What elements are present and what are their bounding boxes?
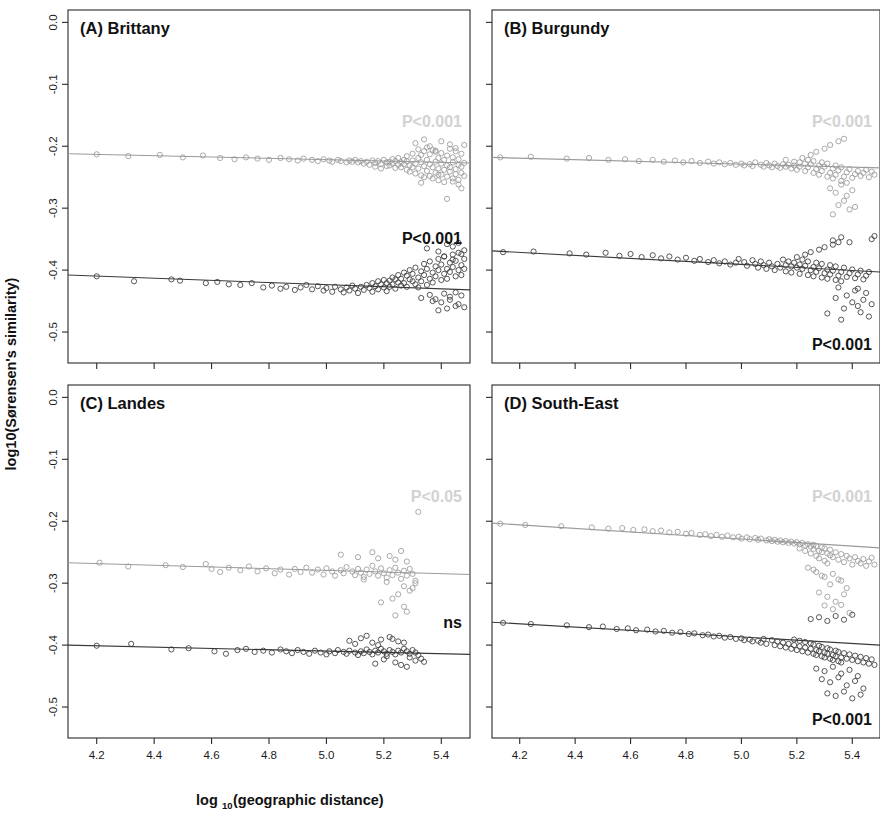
data-point [850, 300, 855, 305]
data-point [852, 653, 857, 658]
data-point [424, 168, 429, 173]
data-point [844, 180, 849, 185]
data-point [410, 571, 415, 576]
panel-A: 0.0-0.1-0.2-0.3-0.4-0.5(A) BrittanyP<0.0… [47, 0, 470, 369]
data-point [866, 559, 871, 564]
data-point [131, 279, 136, 284]
data-point [825, 174, 830, 179]
data-point [462, 173, 467, 178]
data-point [816, 615, 821, 620]
series-dark-series-A [68, 240, 470, 313]
data-point [731, 535, 736, 540]
data-point [442, 254, 447, 259]
data-point [376, 287, 381, 292]
data-point [419, 269, 424, 274]
data-point [459, 293, 464, 298]
data-point [825, 161, 830, 166]
data-point [814, 149, 819, 154]
data-point [462, 305, 467, 310]
panel-frame-B [492, 10, 880, 363]
data-point [828, 680, 833, 685]
data-point [822, 603, 827, 608]
data-point [439, 150, 444, 155]
data-point [803, 168, 808, 173]
data-point [847, 271, 852, 276]
data-point [850, 562, 855, 567]
data-point [872, 233, 877, 238]
panel-B: (B) BurgundyP<0.001P<0.001 [486, 0, 880, 369]
data-point [717, 160, 722, 165]
x-axis-title-rest: (geographic distance) [233, 792, 384, 808]
data-point [620, 525, 625, 530]
data-point [808, 152, 813, 157]
data-point [235, 647, 240, 652]
data-point [364, 282, 369, 287]
data-point [413, 282, 418, 287]
data-point [396, 639, 401, 644]
data-point [830, 176, 835, 181]
data-point [830, 607, 835, 612]
y-tick-label: -0.3 [47, 573, 59, 593]
panel-frame-A [68, 10, 470, 363]
data-point [833, 693, 838, 698]
data-point [269, 650, 274, 655]
data-point [822, 245, 827, 250]
data-point [289, 651, 294, 656]
data-point [393, 565, 398, 570]
data-point [852, 678, 857, 683]
data-point [453, 274, 458, 279]
data-point [419, 180, 424, 185]
data-point [424, 282, 429, 287]
data-point [703, 532, 708, 537]
data-point [427, 292, 432, 297]
data-point [858, 654, 863, 659]
data-point [814, 269, 819, 274]
data-point [404, 154, 409, 159]
data-point [850, 267, 855, 272]
data-point [401, 584, 406, 589]
data-point [742, 259, 747, 264]
data-point [869, 169, 874, 174]
data-point [825, 691, 830, 696]
data-point [261, 648, 266, 653]
data-point [783, 645, 788, 650]
data-point [814, 167, 819, 172]
data-point [833, 599, 838, 604]
data-point [249, 281, 254, 286]
data-point [800, 649, 805, 654]
data-point [427, 259, 432, 264]
data-point [836, 273, 841, 278]
data-point [404, 573, 409, 578]
data-point [847, 0, 852, 3]
data-point [750, 258, 755, 263]
y-tick-label: 0.0 [47, 389, 59, 405]
y-tick-label: -0.3 [47, 198, 59, 218]
data-point [404, 559, 409, 564]
data-point [462, 256, 467, 261]
data-point [830, 664, 835, 669]
data-point [292, 287, 297, 292]
y-tick-label: 0.0 [47, 14, 59, 30]
data-point [393, 165, 398, 170]
x-tick-label: 5.2 [789, 749, 805, 761]
data-point [841, 136, 846, 141]
data-point [689, 530, 694, 535]
data-point [126, 154, 131, 159]
data-point [822, 669, 827, 674]
data-point [344, 564, 349, 569]
data-point [398, 662, 403, 667]
data-point [786, 259, 791, 264]
data-point [839, 551, 844, 556]
data-point [252, 649, 257, 654]
data-point [442, 180, 447, 185]
data-point [298, 569, 303, 574]
data-point [416, 275, 421, 280]
data-point [855, 168, 860, 173]
x-tick-label: 4.8 [261, 749, 277, 761]
figure-root: 0.0-0.1-0.2-0.3-0.4-0.5(A) BrittanyP<0.0… [0, 0, 880, 815]
data-point [833, 613, 838, 618]
data-point [658, 528, 663, 533]
data-point [309, 287, 314, 292]
data-point [808, 250, 813, 255]
y-tick-label: -0.1 [47, 449, 59, 469]
